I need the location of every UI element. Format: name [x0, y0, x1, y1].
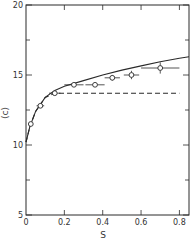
open-circle-marker: [52, 91, 57, 96]
open-circle-marker: [38, 103, 43, 108]
x-tick-label: 0: [23, 218, 28, 227]
x-tick-label: 0.6: [135, 218, 148, 227]
open-circle-marker: [28, 122, 33, 127]
y-tick-label: 15: [13, 71, 23, 80]
data-point: [124, 71, 139, 79]
plot-border: [26, 5, 189, 215]
x-axis-label: S: [100, 230, 106, 240]
x-tick-label: 0.4: [96, 218, 109, 227]
y-tick-label: 5: [18, 211, 23, 220]
open-circle-marker: [158, 66, 163, 71]
open-circle-marker: [110, 75, 115, 80]
open-circle-marker: [93, 82, 98, 87]
dashed-curve: [26, 93, 179, 142]
y-axis-label: ⟨c⟩: [0, 107, 10, 119]
chart: 00.20.40.60.8 5101520 S ⟨c⟩: [0, 0, 192, 244]
data-point: [28, 122, 33, 127]
data-point: [141, 62, 179, 73]
data-point: [49, 91, 61, 96]
data-points: [28, 62, 179, 126]
x-tick-label: 0.8: [173, 218, 186, 227]
x-tick-labels: 00.20.40.60.8: [23, 218, 185, 227]
data-point: [64, 82, 83, 87]
y-tick-label: 20: [13, 1, 23, 10]
data-point: [105, 75, 120, 81]
open-circle-marker: [129, 73, 134, 78]
x-tick-label: 0.2: [58, 218, 71, 227]
y-tick-label: 10: [13, 141, 23, 150]
curves: [26, 57, 189, 142]
plot-frame: [26, 5, 189, 215]
data-point: [85, 82, 104, 87]
axis-ticks: [26, 5, 189, 215]
open-circle-marker: [72, 82, 77, 87]
y-tick-labels: 5101520: [13, 1, 23, 220]
solid-curve: [26, 57, 189, 142]
